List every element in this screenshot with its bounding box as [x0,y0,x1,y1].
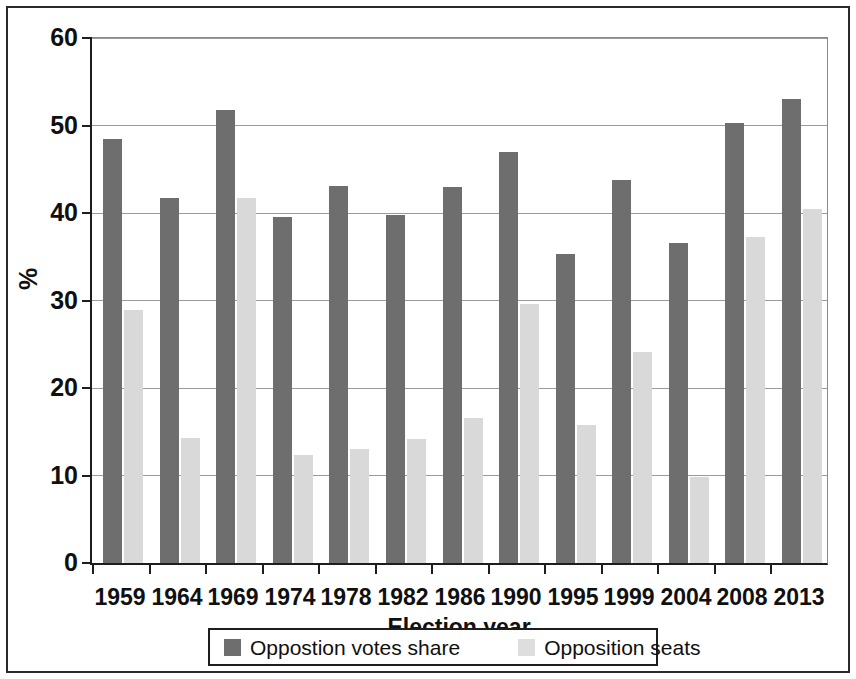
x-axis-tick-label: 1974 [264,586,315,609]
bar [577,425,596,563]
y-axis-tick-label: 30 [32,288,78,313]
legend-entry-opposition-seats[interactable]: Opposition seats [518,630,700,664]
x-axis-tick [770,563,772,574]
x-axis-tick-label: 1986 [434,586,485,609]
y-axis-tick-label: 0 [32,550,78,575]
bar [273,217,292,563]
y-axis-tick [82,125,92,127]
x-axis-tick-label: 2008 [716,586,767,609]
x-axis-tick [544,563,546,574]
x-axis-tick [92,563,94,574]
y-axis-tick [82,300,92,302]
light-swatch-icon [518,639,535,656]
x-axis-tick [488,563,490,574]
x-axis-tick-label: 1964 [151,586,202,609]
x-axis-tick [601,563,603,574]
y-axis-tick-label: 50 [32,113,78,138]
bar [160,198,179,563]
y-axis-tick-label: 20 [32,375,78,400]
x-axis-tick-label: 2013 [773,586,824,609]
x-axis-tick [375,563,377,574]
bar [725,123,744,563]
x-axis-tick-label: 1959 [94,586,145,609]
bar [746,237,765,563]
plot-wrapper: % 01020304050601959196419691974197819821… [0,0,856,679]
bar [124,310,143,563]
legend-label: Oppostion votes share [250,637,460,658]
legend-entry-opposition-votes-share[interactable]: Oppostion votes share [224,630,460,664]
bar [520,304,539,563]
y-axis-tick [82,212,92,214]
bar [782,99,801,563]
bar [350,449,369,563]
plot-area: 0102030405060195919641969197419781982198… [90,37,828,565]
y-axis-tick-label: 40 [32,200,78,225]
y-axis-tick-label: 60 [32,25,78,50]
x-axis-tick [714,563,716,574]
bar [329,186,348,563]
bar [612,180,631,563]
bar [407,439,426,563]
bar [803,209,822,563]
bar [499,152,518,563]
bar [669,243,688,563]
bar [633,352,652,563]
bar [216,110,235,563]
x-axis-tick-label: 1982 [377,586,428,609]
x-axis-tick [657,563,659,574]
x-axis-tick-label: 1995 [547,586,598,609]
gridline [92,38,827,39]
y-axis-tick [82,37,92,39]
y-axis-tick [82,475,92,477]
x-axis-tick-label: 1990 [490,586,541,609]
x-axis-tick [149,563,151,574]
bar [556,254,575,563]
x-axis-tick-label: 1978 [320,586,371,609]
x-axis-tick [431,563,433,574]
bar [103,139,122,563]
y-axis-tick-label: 10 [32,463,78,488]
y-axis-tick [82,562,92,564]
bar [386,215,405,563]
x-axis-tick [318,563,320,574]
x-axis-tick-label: 1969 [207,586,258,609]
chart-figure: % 01020304050601959196419691974197819821… [0,0,856,679]
legend-label: Opposition seats [544,637,700,658]
bar [690,477,709,563]
bar [181,438,200,563]
x-axis-tick-label: 1999 [603,586,654,609]
bar [464,418,483,563]
y-axis-tick [82,387,92,389]
bar [237,198,256,563]
x-axis-tick [205,563,207,574]
bar [294,455,313,563]
x-axis-tick-label: 2004 [660,586,711,609]
dark-swatch-icon [224,639,241,656]
chart-legend: Oppostion votes share Opposition seats [208,628,658,666]
bar [443,187,462,563]
x-axis-tick [262,563,264,574]
gridline [92,125,827,126]
